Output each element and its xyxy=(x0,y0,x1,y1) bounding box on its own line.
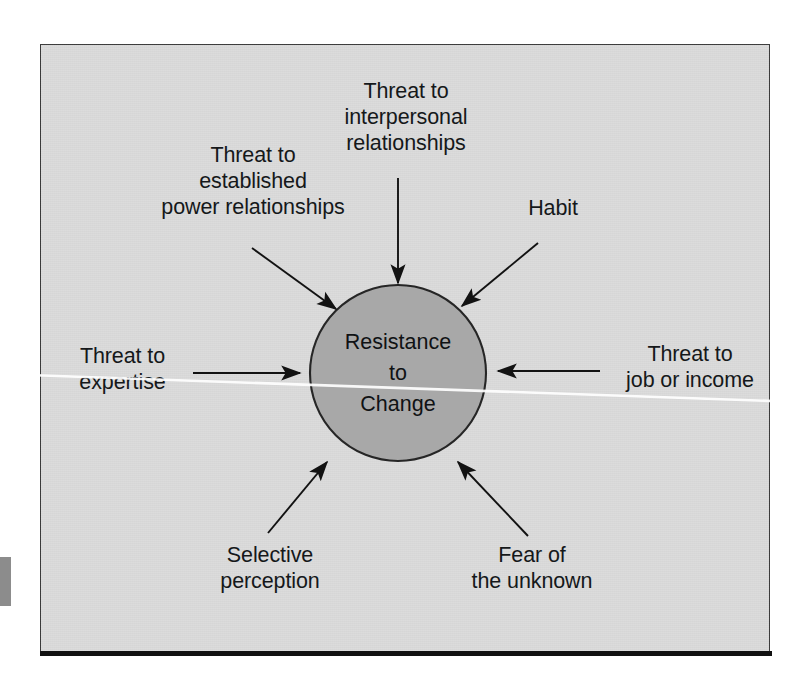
figure-stage: Resistance to Change Threat to establish… xyxy=(0,0,800,685)
label-threat-job-income: Threat to job or income xyxy=(600,341,780,393)
label-threat-interpersonal: Threat to interpersonal relationships xyxy=(306,78,506,156)
arrow-habit xyxy=(462,243,538,306)
center-node-label: Resistance to Change xyxy=(298,327,498,420)
label-habit: Habit xyxy=(488,195,618,221)
arrow-threat-established-power xyxy=(252,248,336,309)
arrow-fear-unknown xyxy=(458,462,528,536)
label-fear-unknown: Fear of the unknown xyxy=(437,542,627,594)
arrow-selective-perception xyxy=(268,462,327,533)
label-selective-perception: Selective perception xyxy=(175,542,365,594)
label-threat-expertise: Threat to expertise xyxy=(45,343,200,395)
